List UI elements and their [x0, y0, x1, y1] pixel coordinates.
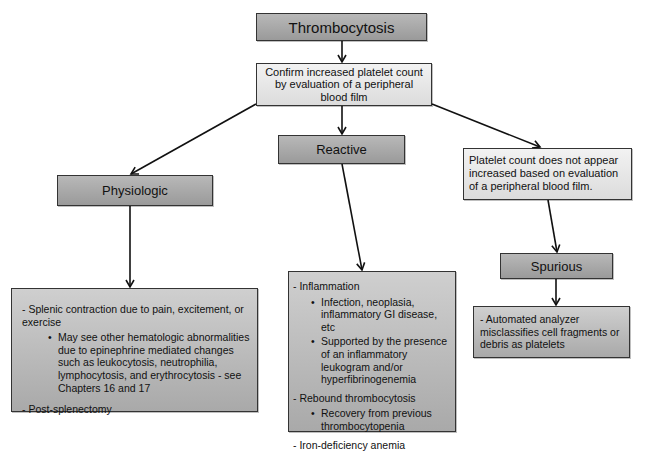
detail-item: - Rebound thrombocytosis: [293, 392, 449, 405]
detail-item: - Automated analyzer misclassifies cell …: [480, 313, 623, 351]
branch-node-spurious: Spurious: [500, 253, 613, 279]
branch-node-physiologic: Physiologic: [57, 175, 213, 206]
branch-label-spurious: Spurious: [531, 259, 582, 274]
detail-subitem: May see other hematologic abnormalities …: [58, 331, 251, 394]
details-spurious: - Automated analyzer misclassifies cell …: [473, 306, 630, 358]
branch-label-reactive: Reactive: [316, 142, 367, 157]
confirm-node-label: Confirm increased platelet count by eval…: [263, 66, 425, 104]
detail-item: - Inflammation: [293, 280, 449, 293]
detail-subitem: Infection, neoplasia, inflammatory GI di…: [321, 296, 449, 334]
root-node-label: Thrombocytosis: [289, 19, 395, 36]
detail-item: - Iron-deficiency anemia: [293, 439, 449, 451]
condition-label: Platelet count does not appear increased…: [469, 154, 618, 192]
arrow-confirm-to-physiologic: [131, 104, 256, 174]
confirm-node: Confirm increased platelet count by eval…: [256, 63, 432, 106]
condition-node-not-increased: Platelet count does not appear increased…: [463, 148, 632, 200]
detail-subitem: Supported by the presence of an inflamma…: [321, 335, 449, 385]
arrow-confirm-to-platelet-box: [432, 104, 540, 147]
branch-node-reactive: Reactive: [278, 135, 405, 164]
detail-item: - Splenic contraction due to pain, excit…: [22, 303, 251, 328]
detail-subitem: Recovery from previous thrombocytopenia: [321, 407, 449, 432]
root-node-thrombocytosis: Thrombocytosis: [256, 13, 427, 41]
arrow-platelet-box-to-spurious: [548, 200, 557, 252]
branch-label-physiologic: Physiologic: [102, 183, 168, 198]
details-reactive: - Inflammation Infection, neoplasia, inf…: [288, 271, 456, 432]
arrow-reactive-to-details: [342, 164, 362, 270]
detail-item: - Post-splenectomy: [22, 403, 251, 416]
details-physiologic: - Splenic contraction due to pain, excit…: [11, 288, 258, 412]
